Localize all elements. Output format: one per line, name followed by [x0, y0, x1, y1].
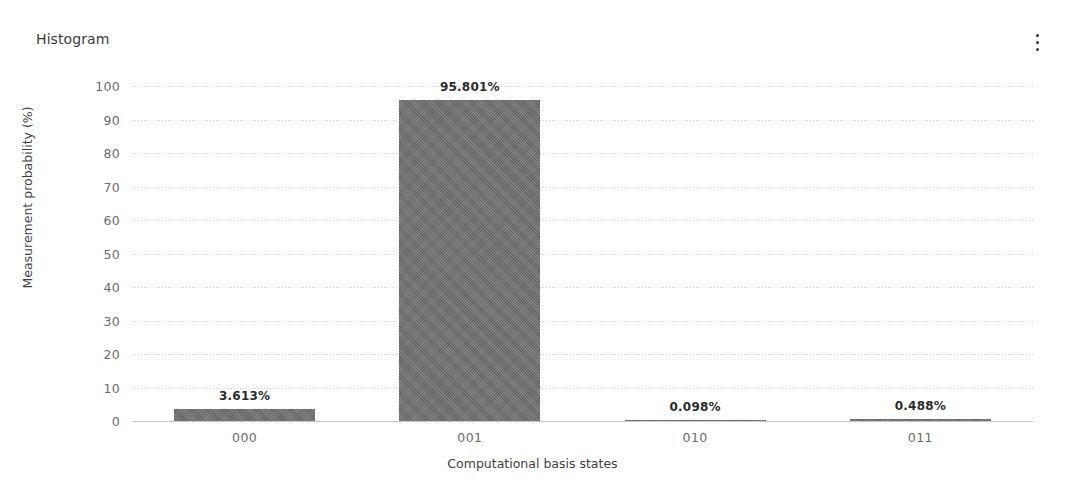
y-tick-label: 80 [70, 146, 120, 161]
y-tick-label: 60 [70, 213, 120, 228]
y-tick-label: 10 [70, 380, 120, 395]
bar-value-label: 3.613% [219, 389, 270, 403]
x-tick-label: 010 [682, 430, 707, 445]
y-tick-label: 70 [70, 179, 120, 194]
y-tick-label: 0 [70, 414, 120, 429]
kebab-dot-3 [1036, 48, 1039, 51]
y-axis-tick-labels: 1009080706050403020100 [62, 86, 120, 421]
gridline [132, 187, 1033, 188]
x-axis-title: Computational basis states [0, 456, 1065, 471]
y-tick-label: 20 [70, 347, 120, 362]
gridline [132, 120, 1033, 121]
x-tick-label: 001 [457, 430, 482, 445]
bar-value-label: 0.098% [670, 400, 721, 414]
bar-value-label: 95.801% [440, 80, 500, 94]
x-tick-label: 011 [908, 430, 933, 445]
y-axis-title: Measurement probability (%) [20, 83, 35, 313]
y-tick-label: 40 [70, 280, 120, 295]
page-title: Histogram [36, 31, 110, 47]
bar[interactable] [174, 409, 315, 421]
kebab-dot-2 [1036, 41, 1039, 44]
x-tick-label: 000 [232, 430, 257, 445]
kebab-dot-1 [1036, 34, 1039, 37]
gridline [132, 86, 1033, 87]
gridline [132, 254, 1033, 255]
y-tick-label: 50 [70, 246, 120, 261]
kebab-menu-icon[interactable] [1025, 27, 1049, 57]
bar[interactable] [399, 100, 540, 421]
chart-panel-header: Histogram [0, 0, 1065, 70]
y-tick-label: 30 [70, 313, 120, 328]
x-axis-line [132, 421, 1033, 422]
gridline [132, 220, 1033, 221]
gridline [132, 321, 1033, 322]
bar-value-label: 0.488% [895, 399, 946, 413]
y-tick-label: 90 [70, 112, 120, 127]
y-tick-label: 100 [70, 79, 120, 94]
plot-area: 3.613%95.801%0.098%0.488% [132, 86, 1033, 421]
gridline [132, 153, 1033, 154]
gridline [132, 287, 1033, 288]
gridline [132, 354, 1033, 355]
